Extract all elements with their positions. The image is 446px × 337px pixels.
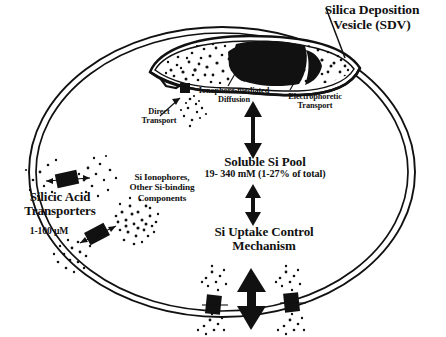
label-electrophoretic-transport: Electrophoretic Transport (274, 92, 356, 110)
stipple-si-ionophore-cloud (115, 197, 160, 246)
label-direct-transport: Direct Transport (126, 107, 192, 125)
label-si-ionophores: Si Ionophores, Other Si-binding Componen… (106, 172, 218, 203)
stipple-outside-left-lower (53, 239, 91, 273)
arrow-membrane-exchange (237, 268, 266, 330)
label-transporter-concentration: 1-100 µM (8, 226, 90, 236)
label-silicic-acid-transporters: Silicic Acid Transporters (2, 190, 118, 219)
figure-canvas: Silica Deposition Vesicle (SDV) Ionophor… (0, 0, 446, 337)
label-silica-deposition-vesicle: Silica Deposition Vesicle (SDV) (300, 2, 444, 32)
label-si-uptake-control-mechanism: Si Uptake Control Mechanism (178, 225, 350, 254)
stipple-bottom-outer-right (277, 313, 305, 335)
label-soluble-si-pool-title: Soluble Si Pool (177, 155, 353, 168)
arrow-pool-to-uptake (245, 184, 261, 226)
stipple-bottom-inner-right (275, 265, 301, 291)
stipple-bottom-inner-left (201, 265, 227, 291)
arrow-sdv-to-pool (244, 101, 262, 159)
label-ionophore-mediated-diffusion: Ionophore-mediated Diffusion (186, 86, 282, 104)
